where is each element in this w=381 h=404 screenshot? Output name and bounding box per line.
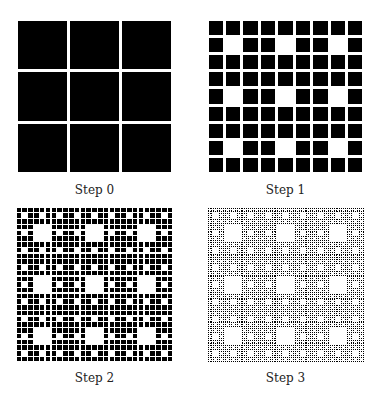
carpet-square <box>156 357 161 361</box>
carpet-square <box>241 254 242 255</box>
carpet-square <box>237 208 238 209</box>
carpet-square <box>330 315 331 316</box>
carpet-square <box>349 263 350 264</box>
carpet-square <box>270 275 271 276</box>
carpet-square <box>208 332 209 333</box>
carpet-square <box>275 322 276 323</box>
carpet-square <box>328 265 329 266</box>
carpet-square <box>316 349 317 350</box>
carpet-square <box>363 213 364 214</box>
carpet-square <box>248 278 249 279</box>
carpet-square <box>316 309 317 310</box>
carpet-square <box>168 357 173 361</box>
carpet-square <box>345 321 346 322</box>
carpet-square <box>256 334 257 335</box>
carpet-square <box>347 326 348 327</box>
carpet-square <box>326 321 327 322</box>
carpet-square <box>279 299 280 300</box>
carpet-square <box>86 317 91 321</box>
carpet-square <box>110 305 115 309</box>
carpet-square <box>270 294 271 295</box>
carpet-square <box>208 276 209 277</box>
carpet-square <box>272 336 273 337</box>
carpet-square <box>278 107 292 121</box>
carpet-square <box>260 340 261 341</box>
carpet-square <box>233 349 234 350</box>
carpet-square <box>310 250 311 251</box>
carpet-square <box>320 349 321 350</box>
carpet-square <box>219 317 220 318</box>
carpet-square <box>235 242 236 243</box>
carpet-square <box>211 311 212 312</box>
carpet-square <box>254 263 255 264</box>
carpet-square <box>162 305 167 309</box>
carpet-square <box>281 355 282 356</box>
carpet-square <box>305 324 306 325</box>
carpet-square <box>210 286 211 287</box>
carpet-square <box>264 229 265 230</box>
carpet-square <box>359 284 360 285</box>
carpet-square <box>324 315 325 316</box>
carpet-square <box>215 229 216 230</box>
carpet-square <box>351 338 352 339</box>
carpet-square <box>303 246 304 247</box>
carpet-square <box>345 299 346 300</box>
carpet-square <box>289 359 290 360</box>
carpet-square <box>258 229 259 230</box>
carpet-square <box>110 288 115 292</box>
carpet-square <box>268 309 269 310</box>
carpet-square <box>208 324 209 325</box>
carpet-square <box>244 257 245 258</box>
carpet-square <box>244 229 245 230</box>
carpet-square <box>306 208 307 209</box>
carpet-square <box>318 313 319 314</box>
carpet-square <box>233 322 234 323</box>
carpet-square <box>229 210 230 211</box>
carpet-square <box>264 349 265 350</box>
carpet-square <box>156 317 161 321</box>
carpet-square <box>295 208 296 209</box>
carpet-square <box>295 338 296 339</box>
carpet-square <box>326 292 327 293</box>
carpet-square <box>258 357 259 358</box>
carpet-square <box>275 259 276 260</box>
carpet-square <box>81 236 86 240</box>
carpet-square <box>264 275 265 276</box>
carpet-square <box>349 254 350 255</box>
carpet-square <box>115 242 120 246</box>
carpet-square <box>363 221 364 222</box>
carpet-square <box>306 345 307 346</box>
carpet-square <box>229 347 230 348</box>
carpet-square <box>254 313 255 314</box>
carpet-square <box>330 355 331 356</box>
carpet-square <box>225 263 226 264</box>
carpet-square <box>266 349 267 350</box>
carpet-square <box>287 298 288 299</box>
carpet-square <box>361 236 362 237</box>
carpet-square <box>213 332 214 333</box>
carpet-square <box>296 55 310 69</box>
carpet-square <box>310 294 311 295</box>
carpet-square <box>264 307 265 308</box>
carpet-square <box>133 299 138 303</box>
carpet-square <box>256 298 257 299</box>
carpet-square <box>318 326 319 327</box>
carpet-square <box>305 225 306 226</box>
carpet-square <box>211 349 212 350</box>
carpet-square <box>246 328 247 329</box>
carpet-square <box>217 255 218 256</box>
carpet-square <box>256 309 257 310</box>
carpet-square <box>127 288 132 292</box>
carpet-square <box>349 269 350 270</box>
carpet-square <box>231 273 232 274</box>
carpet-square <box>231 326 232 327</box>
carpet-square <box>351 361 352 362</box>
carpet-square <box>235 255 236 256</box>
carpet-square <box>341 347 342 348</box>
carpet-square <box>330 324 331 325</box>
carpet-square <box>295 319 296 320</box>
carpet-square <box>210 263 211 264</box>
carpet-square <box>351 210 352 211</box>
carpet-square <box>308 252 309 253</box>
carpet-square <box>351 317 352 318</box>
